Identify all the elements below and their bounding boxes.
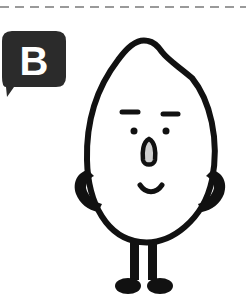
nose xyxy=(143,139,156,165)
character-legs xyxy=(115,240,173,294)
right-eye xyxy=(163,128,170,135)
left-eye xyxy=(131,128,138,135)
rice-character-illustration xyxy=(0,0,246,299)
